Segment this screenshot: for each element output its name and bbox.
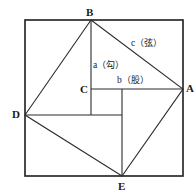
gougu-diagram: B A D E C c（弦） a（勾） b（股）	[0, 0, 196, 195]
side-label-hypotenuse-c: c（弦）	[131, 39, 162, 49]
vertex-label-e: E	[118, 181, 125, 192]
vertex-label-b: B	[86, 7, 93, 18]
side-cjk-gu: （股）	[122, 75, 149, 85]
side-cjk-xian: （弦）	[135, 38, 162, 48]
diagram-canvas	[0, 0, 196, 195]
side-cjk-gou: （勾）	[97, 60, 124, 70]
vertex-label-a: A	[186, 83, 194, 94]
side-label-leg-b: b（股）	[117, 76, 149, 86]
side-label-leg-a: a（勾）	[93, 61, 124, 71]
vertex-label-d: D	[12, 109, 20, 120]
vertex-label-c: C	[80, 84, 88, 95]
